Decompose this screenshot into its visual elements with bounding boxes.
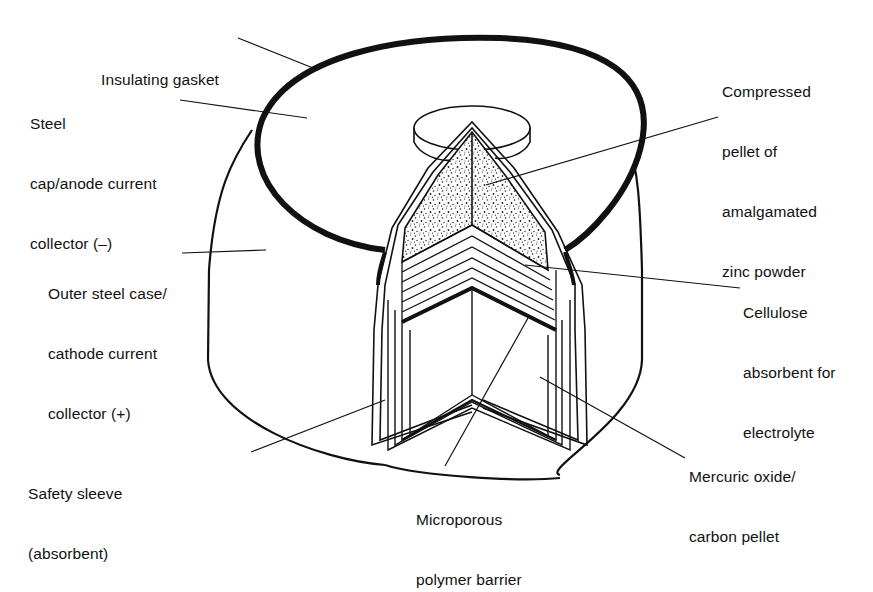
label-line: electrolyte	[743, 423, 836, 443]
label-line: polymer barrier	[416, 570, 522, 590]
label-line: zinc powder	[722, 262, 817, 282]
leader-cellulose	[525, 265, 740, 288]
label-line: Safety sleeve	[28, 484, 122, 504]
label-line: Microporous	[416, 510, 522, 530]
label-line: carbon pellet	[689, 527, 796, 547]
label-line: Mercuric oxide/	[689, 467, 796, 487]
label-safety-sleeve: Safety sleeve (absorbent)	[28, 444, 122, 584]
leader-outer-case	[182, 250, 266, 253]
leader-microporous-barrier	[445, 318, 528, 466]
label-line: cathode current	[48, 344, 167, 364]
label-microporous-barrier: Microporous polymer barrier	[416, 470, 522, 592]
leader-insulating-gasket	[238, 38, 318, 70]
label-line: absorbent for	[743, 363, 836, 383]
label-line: Steel	[30, 114, 157, 134]
label-line: Outer steel case/	[48, 284, 167, 304]
label-line: Cellulose	[743, 303, 836, 323]
label-line: pellet of	[722, 142, 817, 162]
label-line: (absorbent)	[28, 544, 122, 564]
label-line: collector (+)	[48, 404, 167, 424]
label-line: amalgamated	[722, 202, 817, 222]
label-outer-case: Outer steel case/ cathode current collec…	[48, 244, 167, 444]
label-zinc-pellet: Compressed pellet of amalgamated zinc po…	[722, 42, 817, 302]
label-line: cap/anode current	[30, 174, 157, 194]
leader-safety-sleeve	[251, 400, 385, 452]
label-line: Compressed	[722, 82, 817, 102]
